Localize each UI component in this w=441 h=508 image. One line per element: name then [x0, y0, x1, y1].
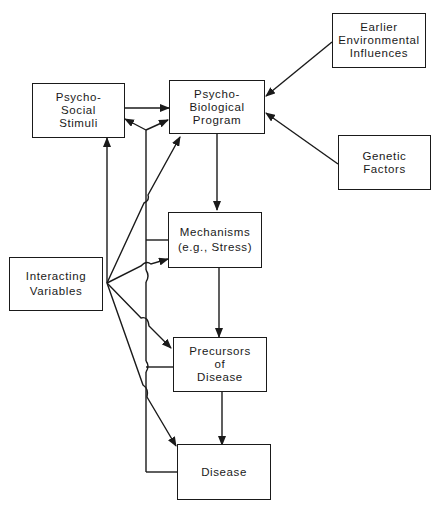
node-label-line: Disease	[201, 466, 247, 479]
node-earlier-environmental-influences: EarlierEnvironmentalInfluences	[332, 13, 426, 68]
node-label-line: Disease	[189, 371, 251, 384]
node-psychosocial-stimuli: Psycho-SocialStimuli	[32, 83, 125, 138]
node-precursors-of-disease: PrecursorsofDisease	[173, 337, 267, 392]
edge-interacting-to-disease	[107, 283, 176, 446]
node-label-line: Factors	[363, 163, 407, 176]
node-label-line: Interacting	[26, 270, 86, 283]
node-label-line: Mechanisms	[178, 226, 252, 239]
node-label-line: Biological	[189, 101, 244, 114]
node-label-line: Influences	[338, 47, 419, 60]
node-label-line: Environmental	[338, 34, 419, 47]
edge-earlier-to-psychobiological	[266, 42, 332, 96]
node-label-line: Psycho-	[189, 88, 244, 101]
edge-interacting-to-precursors	[107, 283, 171, 348]
edge-genetic-to-psychobiological	[266, 113, 338, 164]
node-genetic-factors: GeneticFactors	[338, 135, 431, 190]
node-mechanisms: Mechanisms(e.g., Stress)	[168, 212, 262, 268]
node-psychobiological-program: Psycho-BiologicalProgram	[169, 80, 265, 134]
node-label-line: Psycho-	[56, 91, 102, 104]
node-label-line: Variables	[26, 285, 86, 298]
node-label-line: of	[189, 358, 251, 371]
node-label-line: Program	[189, 114, 244, 127]
node-label-line: Precursors	[189, 345, 251, 358]
node-disease: Disease	[177, 444, 271, 500]
node-label-line: Social	[56, 104, 102, 117]
node-label-line: (e.g., Stress)	[178, 241, 252, 254]
node-label-line: Stimuli	[56, 117, 102, 130]
node-label-line: Earlier	[338, 21, 419, 34]
node-interacting-variables: InteractingVariables	[9, 257, 103, 311]
node-label-line: Genetic	[363, 150, 407, 163]
